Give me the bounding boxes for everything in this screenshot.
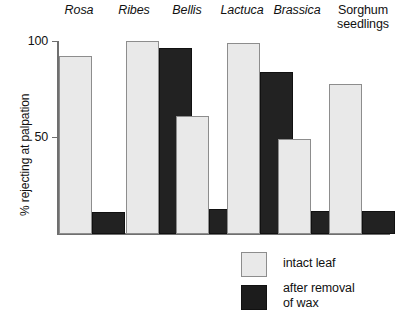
bar-lactuca-intact [227,43,260,234]
bar-sorghum-intact [329,84,362,234]
bar-rosa-wax-removed [92,212,125,234]
legend-label-wax-removed: after removal of wax [283,281,403,311]
bar-chart-figure: Rosa Ribes Bellis Lactuca Brassica Sorgh… [0,0,407,315]
legend-label-intact-leaf: intact leaf [283,256,403,271]
y-tick-50 [52,137,57,138]
group-label-brassica: Brassica [268,4,326,18]
group-label-rosa: Rosa [55,4,103,18]
bar-bellis-intact [176,116,209,234]
group-label-sorghum-seedlings: Sorghum seedlings [325,4,401,31]
y-tick-label-100: 100 [12,34,48,48]
legend-swatch-wax-removed [241,285,267,310]
y-axis-title: % rejecting at palpation [18,94,32,216]
group-label-lactuca: Lactuca [214,4,270,18]
group-label-ribes: Ribes [110,4,158,18]
y-tick-100 [52,41,57,42]
group-label-bellis: Bellis [163,4,211,18]
legend-swatch-intact-leaf [241,252,267,277]
bar-rosa-intact [59,56,92,234]
bar-sorghum-wax-removed [362,211,395,234]
bar-brassica-intact [278,139,311,234]
bar-ribes-intact [126,41,159,234]
